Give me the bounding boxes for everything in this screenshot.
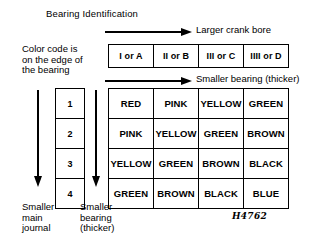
bore-header-cell: III or C xyxy=(199,45,244,68)
color-cell: BROWN xyxy=(154,179,199,209)
smaller-main-journal-arrow-shaft xyxy=(37,90,39,180)
table-row: 3 xyxy=(56,149,85,179)
larger-crank-bore-arrow-icon xyxy=(181,28,192,36)
color-cell: RED xyxy=(109,89,154,119)
smaller-bearing-vertical-arrow-shaft xyxy=(95,90,97,180)
table-row: RED PINK YELLOW GREEN xyxy=(109,89,289,119)
color-cell: GREEN xyxy=(109,179,154,209)
smaller-bearing-arrow-icon xyxy=(181,77,192,85)
bearing-identification-diagram: Bearing Identification Color code is on … xyxy=(0,0,332,240)
color-cell: BROWN xyxy=(199,149,244,179)
bore-header-cell: I or A xyxy=(109,45,154,68)
journal-number-cell: 2 xyxy=(56,119,85,149)
figure-reference: H4762 xyxy=(232,211,267,221)
color-cell: BLUE xyxy=(244,179,289,209)
smaller-main-journal-caption: Smaller main journal xyxy=(22,202,54,234)
color-cell: GREEN xyxy=(244,89,289,119)
color-cell: BLACK xyxy=(244,149,289,179)
journal-number-cell: 3 xyxy=(56,149,85,179)
larger-crank-bore-arrow-shaft xyxy=(105,31,187,33)
color-cell: YELLOW xyxy=(109,149,154,179)
journal-number-cell: 1 xyxy=(56,89,85,119)
table-row: 1 xyxy=(56,89,85,119)
table-row: 2 xyxy=(56,119,85,149)
table-row: YELLOW GREEN BROWN BLACK xyxy=(109,149,289,179)
journal-number-column: 1 2 3 4 xyxy=(55,88,85,209)
color-cell: YELLOW xyxy=(154,119,199,149)
color-cell: GREEN xyxy=(154,149,199,179)
color-cell: PINK xyxy=(109,119,154,149)
color-code-matrix-table: RED PINK YELLOW GREEN PINK YELLOW GREEN … xyxy=(108,88,289,209)
table-row: PINK YELLOW GREEN BROWN xyxy=(109,119,289,149)
color-cell: BLACK xyxy=(199,179,244,209)
color-cell: GREEN xyxy=(199,119,244,149)
smaller-bearing-vertical-arrow-icon xyxy=(92,176,100,187)
smaller-bearing-caption: Smaller bearing (thicker) xyxy=(80,202,114,234)
bore-size-header-table: I or A II or B III or C IIII or D xyxy=(108,44,289,68)
table-row: I or A II or B III or C IIII or D xyxy=(109,45,289,68)
diagram-title: Bearing Identification xyxy=(46,8,138,19)
bore-header-cell: IIII or D xyxy=(244,45,289,68)
color-cell: PINK xyxy=(154,89,199,119)
color-code-note: Color code is on the edge of the bearing xyxy=(22,44,83,76)
smaller-bearing-arrow-shaft xyxy=(105,80,187,82)
smaller-bearing-label: Smaller bearing (thicker) xyxy=(196,73,299,84)
smaller-main-journal-arrow-icon xyxy=(34,176,42,187)
color-cell: YELLOW xyxy=(199,89,244,119)
bore-header-cell: II or B xyxy=(154,45,199,68)
color-cell: BROWN xyxy=(244,119,289,149)
larger-crank-bore-label: Larger crank bore xyxy=(196,24,271,35)
table-row: GREEN BROWN BLACK BLUE xyxy=(109,179,289,209)
